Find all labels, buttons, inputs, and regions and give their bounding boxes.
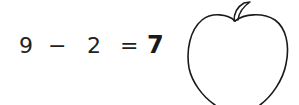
apple-outline-icon (180, 0, 299, 105)
minus-sign: − (48, 33, 66, 59)
operand-1: 9 (19, 33, 33, 59)
operand-2: 2 (87, 33, 101, 59)
equals-sign: = (120, 33, 138, 59)
answer: 7 (147, 32, 164, 58)
